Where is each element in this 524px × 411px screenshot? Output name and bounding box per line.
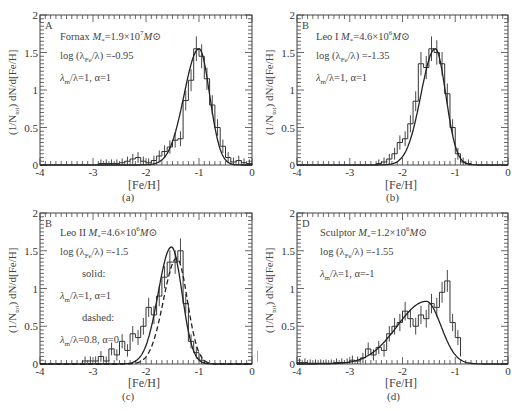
y-tick-label: 2 xyxy=(33,207,39,219)
y-tick-label: 2 xyxy=(33,9,39,21)
legend-line-dashed: dashed: xyxy=(60,311,157,333)
y-tick-label: 1 xyxy=(290,84,296,96)
y-tick-label: 0.5 xyxy=(24,122,38,134)
y-tick-label: 0.5 xyxy=(281,320,295,332)
x-tick-label: 0 xyxy=(505,365,511,377)
x-tick-label: -2 xyxy=(398,166,407,178)
y-axis-label-b: (1/Ntot) dN/d[Fe/H] xyxy=(263,50,278,135)
legend-line-mass: Leo I M*=4.6×106M⊙ xyxy=(316,27,410,49)
legend-line-mass: Fornax M*=1.9×107M⊙ xyxy=(60,27,161,49)
legend-line-solid: solid: xyxy=(60,267,157,289)
panel-letter-b: B xyxy=(302,19,309,32)
x-tick-label: -2 xyxy=(141,166,150,178)
legend-line-params-dashed: λm/λ=0.8, α=0 xyxy=(60,333,157,355)
x-tick-label: -3 xyxy=(345,365,355,377)
x-tick-label: 0 xyxy=(505,166,511,178)
y-tick-label: 1 xyxy=(33,84,39,96)
x-tick-label: 0 xyxy=(249,365,255,377)
x-tick-label: -1 xyxy=(194,166,203,178)
y-tick-label: 0 xyxy=(290,159,296,171)
legend-line-log: log (λFe/λ) =-1.5 xyxy=(60,245,157,267)
y-tick-label: 1.5 xyxy=(281,47,295,59)
legend-line-log: log (λFe/λ) =-1.35 xyxy=(316,49,410,71)
legend-a: Fornax M*=1.9×107M⊙ log (λFe/λ) =-0.95 λ… xyxy=(60,27,161,93)
caption-c: (c) xyxy=(122,390,134,402)
caption-a: (a) xyxy=(122,191,134,203)
caption-d: (d) xyxy=(387,390,400,402)
y-tick-label: 2 xyxy=(290,9,296,21)
y-tick-label: 1 xyxy=(33,283,39,295)
y-tick-label: 0.5 xyxy=(281,122,295,134)
x-axis-label-d: [Fe/H] xyxy=(385,376,417,391)
y-tick-label: 1.5 xyxy=(24,47,38,59)
y-axis-label-a: (1/Ntot) dN/d[Fe/H] xyxy=(6,50,21,135)
panel-letter-a: A xyxy=(45,19,53,32)
y-axis-label-d: (1/Ntot) dN/d[Fe/H] xyxy=(263,248,278,333)
legend-line-params: λm/λ=1, α=1 xyxy=(60,71,161,93)
y-tick-label: 1 xyxy=(290,283,296,295)
x-tick-label: -1 xyxy=(451,166,460,178)
y-tick-label: 0.5 xyxy=(24,320,38,332)
legend-line-params: λm/λ=1, α=-1 xyxy=(320,267,427,289)
panel-letter-c: B xyxy=(45,217,52,230)
legend-line-log: log (λFe/λ) =-1.55 xyxy=(320,245,427,267)
caption-b: (b) xyxy=(386,191,399,203)
panel-letter-d: D xyxy=(302,217,310,230)
x-tick-label: -3 xyxy=(345,166,355,178)
legend-line-params: λm/λ=1, α=1 xyxy=(316,71,410,93)
x-tick-label: -1 xyxy=(194,365,203,377)
legend-line-params-solid: λm/λ=1, α=1 xyxy=(60,289,157,311)
y-tick-label: 0 xyxy=(33,159,39,171)
y-tick-label: 1.5 xyxy=(24,245,38,257)
y-axis-label-c: (1/Ntot) dN/d[Fe/H] xyxy=(6,248,21,333)
x-tick-label: -3 xyxy=(88,166,98,178)
y-tick-label: 2 xyxy=(290,207,296,219)
legend-line-log: log (λFe/λ) =-0.95 xyxy=(60,49,161,71)
legend-c: Leo II M*=4.6×106M⊙ log (λFe/λ) =-1.5 so… xyxy=(60,223,157,355)
x-tick-label: -1 xyxy=(451,365,460,377)
x-axis-label-c: [Fe/H] xyxy=(128,376,160,391)
y-tick-label: 0 xyxy=(33,358,39,370)
y-tick-label: 1.5 xyxy=(281,245,295,257)
y-tick-label: 0 xyxy=(290,358,296,370)
legend-d: Sculptor M*=1.2×106M⊙ log (λFe/λ) =-1.55… xyxy=(320,223,427,289)
legend-line-mass: Sculptor M*=1.2×106M⊙ xyxy=(320,223,427,245)
x-tick-label: -3 xyxy=(88,365,98,377)
legend-line-mass: Leo II M*=4.6×106M⊙ xyxy=(60,223,157,245)
x-tick-label: 0 xyxy=(249,166,255,178)
legend-b: Leo I M*=4.6×106M⊙ log (λFe/λ) =-1.35 λm… xyxy=(316,27,410,93)
